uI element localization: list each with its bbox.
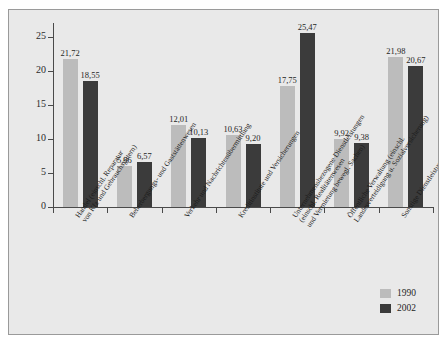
bar-2002-3: 10,13 <box>191 138 206 207</box>
plot-area: 0510152025 21,725,9612,0110,6317,759,922… <box>53 23 433 207</box>
legend-swatch-icon <box>380 304 391 313</box>
bar-value-label: 12,01 <box>169 114 188 124</box>
bar-value-label: 9,92 <box>334 128 349 138</box>
x-tick-mark <box>162 207 163 213</box>
y-tick-mark <box>48 173 53 174</box>
y-tick-label: 25 <box>36 30 46 42</box>
bar-value-label: 10,63 <box>223 124 242 134</box>
bar-1990-5: 17,75 <box>280 86 295 207</box>
y-tick-label: 5 <box>41 166 46 178</box>
chart-plate: 0510152025 21,725,9612,0110,6317,759,922… <box>8 9 439 335</box>
bar-1990-4: 10,63 <box>226 135 241 207</box>
bar-value-label: 17,75 <box>278 75 297 85</box>
bar-value-label: 21,98 <box>386 46 405 56</box>
bar-value-label: 10,13 <box>189 127 208 137</box>
bar-value-label: 21,72 <box>61 48 80 58</box>
bar-2002-5: 25,47 <box>300 33 315 207</box>
x-tick-mark <box>107 207 108 213</box>
bar-2002-2: 6,57 <box>137 162 152 207</box>
legend-item-2002: 2002 <box>380 303 416 314</box>
legend-label: 1990 <box>397 288 416 299</box>
legend-item-1990: 1990 <box>380 288 416 299</box>
bar-2002-4: 9,20 <box>246 144 261 207</box>
bar-1990-2: 5,96 <box>117 166 132 207</box>
bar-value-label: 6,57 <box>137 151 152 161</box>
y-axis-line <box>53 23 54 207</box>
bar-1990-1: 21,72 <box>63 59 78 207</box>
bar-2002-6: 9,38 <box>354 143 369 207</box>
y-tick-mark <box>48 105 53 106</box>
y-tick-mark <box>48 71 53 72</box>
bar-1990-7: 21,98 <box>388 57 403 207</box>
legend-swatch-icon <box>380 289 391 298</box>
y-tick-label: 20 <box>36 64 46 76</box>
y-tick-mark <box>48 139 53 140</box>
bar-value-label: 9,38 <box>354 132 369 142</box>
y-tick-mark <box>48 37 53 38</box>
y-tick-label: 0 <box>41 200 46 212</box>
figure-root: 0510152025 21,725,9612,0110,6317,759,922… <box>0 0 447 343</box>
y-tick-label: 15 <box>36 98 46 110</box>
x-tick-mark <box>270 207 271 213</box>
x-tick-mark <box>53 207 54 213</box>
bar-value-label: 18,55 <box>81 70 100 80</box>
bar-value-label: 9,20 <box>246 133 261 143</box>
x-tick-mark <box>379 207 380 213</box>
x-tick-mark <box>433 207 434 213</box>
bar-2002-1: 18,55 <box>83 81 98 207</box>
x-tick-mark <box>216 207 217 213</box>
y-tick-label: 10 <box>36 132 46 144</box>
chart-legend: 19902002 <box>380 288 416 318</box>
bar-value-label: 5,96 <box>117 155 132 165</box>
bar-value-label: 20,67 <box>406 55 425 65</box>
legend-label: 2002 <box>397 303 416 314</box>
x-axis-line <box>53 207 433 208</box>
bar-1990-6: 9,92 <box>334 139 349 207</box>
bar-value-label: 25,47 <box>298 22 317 32</box>
x-tick-mark <box>324 207 325 213</box>
bar-1990-3: 12,01 <box>171 125 186 207</box>
bar-2002-7: 20,67 <box>408 66 423 207</box>
